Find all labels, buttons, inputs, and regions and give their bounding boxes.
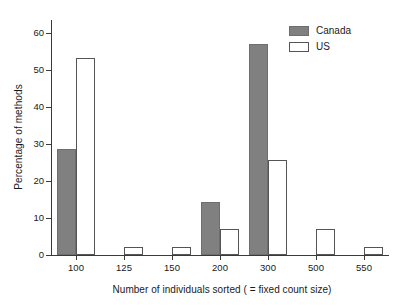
x-tick-label-200: 200 bbox=[200, 262, 240, 273]
chart-legend: Canada US bbox=[289, 24, 389, 56]
x-tick-550 bbox=[364, 256, 365, 260]
bar-us-550 bbox=[364, 247, 383, 255]
y-tick-20 bbox=[46, 181, 51, 182]
bar-chart-figure: Percentage of methods 0102030405060 1001… bbox=[0, 0, 400, 306]
legend-label-canada: Canada bbox=[316, 26, 351, 36]
x-tick-label-300: 300 bbox=[248, 262, 288, 273]
y-tick-label-50: 50 bbox=[20, 65, 44, 75]
bar-us-300 bbox=[268, 160, 287, 255]
x-tick-label-550: 550 bbox=[344, 262, 384, 273]
x-tick-label-500: 500 bbox=[296, 262, 336, 273]
y-tick-label-0: 0 bbox=[20, 250, 44, 260]
legend-swatch-us-icon bbox=[289, 42, 309, 52]
y-tick-30 bbox=[46, 144, 51, 145]
legend-item-canada: Canada bbox=[289, 24, 389, 38]
y-tick-label-40: 40 bbox=[20, 102, 44, 112]
y-tick-40 bbox=[46, 107, 51, 108]
plot-area bbox=[52, 22, 388, 255]
y-tick-label-60: 60 bbox=[20, 28, 44, 38]
bar-canada-300 bbox=[249, 44, 268, 255]
x-tick-label-125: 125 bbox=[104, 262, 144, 273]
bar-canada-200 bbox=[201, 202, 220, 255]
bar-canada-100 bbox=[57, 149, 76, 255]
y-tick-label-30: 30 bbox=[20, 139, 44, 149]
bar-us-100 bbox=[76, 58, 95, 255]
y-tick-50 bbox=[46, 70, 51, 71]
x-tick-label-150: 150 bbox=[152, 262, 192, 273]
y-tick-label-20: 20 bbox=[20, 176, 44, 186]
y-tick-0 bbox=[46, 255, 51, 256]
y-tick-10 bbox=[46, 218, 51, 219]
bar-us-200 bbox=[220, 229, 239, 255]
x-tick-100 bbox=[76, 256, 77, 260]
x-axis-title: Number of individuals sorted ( = fixed c… bbox=[52, 284, 392, 295]
y-tick-label-10: 10 bbox=[20, 213, 44, 223]
y-axis-title: Percentage of methods bbox=[12, 12, 26, 262]
legend-label-us: US bbox=[316, 42, 330, 52]
x-tick-300 bbox=[268, 256, 269, 260]
y-tick-60 bbox=[46, 33, 51, 34]
legend-swatch-canada-icon bbox=[289, 26, 309, 36]
bar-us-500 bbox=[316, 229, 335, 255]
x-tick-200 bbox=[220, 256, 221, 260]
x-tick-150 bbox=[172, 256, 173, 260]
legend-item-us: US bbox=[289, 40, 389, 54]
x-tick-125 bbox=[124, 256, 125, 260]
x-tick-label-100: 100 bbox=[56, 262, 96, 273]
x-tick-500 bbox=[316, 256, 317, 260]
bar-us-150 bbox=[172, 247, 191, 255]
bar-us-125 bbox=[124, 247, 143, 255]
